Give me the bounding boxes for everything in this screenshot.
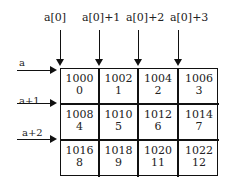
row-pointer-label-1: a+1 — [19, 95, 40, 106]
cell-value: 11 — [139, 157, 177, 169]
cell-0-3: 10063 — [179, 69, 219, 105]
cell-value: 6 — [139, 121, 177, 133]
cell-1-0: 10084 — [61, 105, 100, 141]
cell-value: 1 — [100, 85, 137, 97]
column-pointer-label-1: a[0]+1 — [82, 11, 120, 24]
cell-1-3: 10147 — [179, 105, 219, 141]
cell-value: 12 — [179, 157, 219, 169]
cell-0-0: 10000 — [61, 69, 100, 105]
cell-value: 4 — [61, 121, 98, 133]
column-pointer-label-0: a[0] — [44, 11, 66, 24]
cell-value: 8 — [61, 157, 98, 169]
cell-value: 9 — [100, 157, 137, 169]
cell-2-2: 102011 — [139, 141, 179, 177]
cell-value: 2 — [139, 85, 177, 97]
cell-value: 0 — [61, 85, 98, 97]
cell-value: 5 — [100, 121, 137, 133]
cell-2-0: 10168 — [61, 141, 100, 177]
cell-2-1: 10189 — [100, 141, 139, 177]
cell-1-2: 10126 — [139, 105, 179, 141]
memory-grid: 10000 10021 10042 10063 10084 10105 1012… — [60, 68, 218, 176]
column-pointer-label-2: a[0]+2 — [126, 11, 164, 24]
row-pointer-label-2: a+2 — [22, 127, 43, 138]
cell-value: 7 — [179, 121, 219, 133]
cell-2-3: 102212 — [179, 141, 219, 177]
cell-0-1: 10021 — [100, 69, 139, 105]
column-pointer-label-3: a[0]+3 — [170, 11, 208, 24]
cell-1-1: 10105 — [100, 105, 139, 141]
cell-0-2: 10042 — [139, 69, 179, 105]
row-pointer-label-0: a — [19, 57, 25, 68]
cell-value: 3 — [179, 85, 219, 97]
